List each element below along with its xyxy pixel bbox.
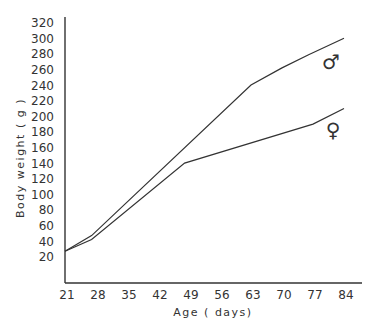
y-tick-label: 160 [31,141,54,155]
series-lines: ♂♀ [65,38,344,251]
y-tick-label: 20 [39,250,54,264]
y-tick-label: 320 [31,16,54,30]
x-tick-label: 49 [183,288,198,302]
growth-chart: 2040608010012014016018020022024026028030… [0,0,376,331]
female-symbol-icon: ♀ [326,118,341,142]
y-tick-label: 240 [31,79,54,93]
y-tick-label: 60 [39,219,54,233]
y-tick-label: 80 [39,203,54,217]
x-tick-label: 21 [59,288,74,302]
y-axis-title: Body weight ( g ) [14,98,27,218]
x-tick-label: 42 [152,288,167,302]
y-tick-label: 140 [31,157,54,171]
y-tick-label: 220 [31,94,54,108]
x-tick-label: 28 [90,288,105,302]
y-tick-label: 280 [31,47,54,61]
y-axis: 2040608010012014016018020022024026028030… [31,16,65,283]
x-tick-label: 56 [214,288,229,302]
x-tick-label: 84 [338,288,353,302]
x-tick-label: 63 [245,288,260,302]
x-tick-label: 35 [121,288,136,302]
y-tick-label: 200 [31,110,54,124]
y-tick-label: 300 [31,32,54,46]
series-line-male [65,38,344,251]
y-tick-label: 40 [39,235,54,249]
x-axis-title: Age ( days) [173,306,252,319]
series-line-female [65,109,344,252]
x-axis: 21283542495663707784 [59,283,362,302]
y-tick-label: 100 [31,188,54,202]
y-tick-label: 260 [31,63,54,77]
y-tick-label: 180 [31,125,54,139]
y-tick-label: 120 [31,172,54,186]
x-tick-label: 70 [276,288,291,302]
x-tick-label: 77 [307,288,322,302]
male-symbol-icon: ♂ [322,50,340,74]
